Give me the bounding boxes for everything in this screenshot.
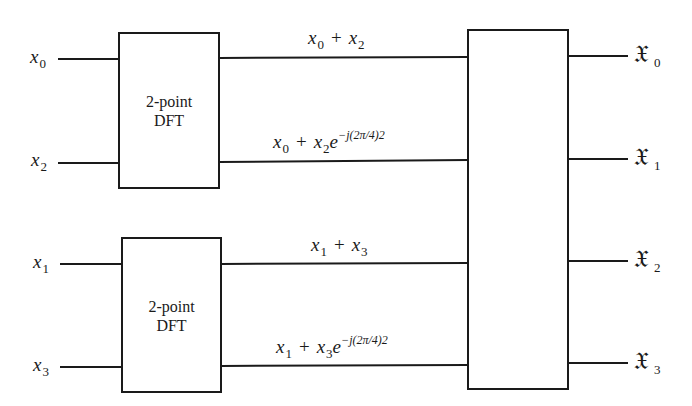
expr-index: 2: [358, 37, 365, 52]
input-label-x3: x3: [33, 355, 49, 374]
input-label-x2: x2: [31, 150, 47, 169]
input-symbol: x: [31, 149, 39, 170]
expr-index: 1: [285, 346, 292, 361]
expr-term: x: [349, 27, 357, 48]
dft-diagram: x0 x2 x1 x3 2-point DFT 2-point DFT x0+x…: [0, 0, 692, 406]
expr-term: x: [308, 27, 316, 48]
mid-expr-2: x1+x3: [311, 235, 368, 254]
expr-term: x: [311, 234, 319, 255]
output-index: 0: [654, 55, 661, 70]
mid-expr-1: x0+x2e−j(2π/4)2: [273, 132, 385, 151]
output-label-X3: 𝔛3: [634, 349, 661, 373]
input-index: 2: [40, 159, 47, 174]
input-index: 3: [42, 364, 49, 379]
input-label-x1: x1: [33, 252, 49, 271]
expr-term: x: [317, 336, 325, 357]
expr-exp-base: e: [333, 336, 341, 357]
expr-term: x: [276, 336, 284, 357]
dft-block-top-label: 2-point DFT: [119, 92, 219, 130]
mid-expr-0: x0+x2: [308, 28, 365, 47]
block-label-line2: DFT: [122, 316, 221, 335]
expr-index: 3: [361, 244, 368, 259]
expr-operator: +: [299, 336, 310, 357]
expr-term: x: [273, 131, 281, 152]
expr-index: 0: [317, 37, 324, 52]
expr-exp-base: e: [330, 131, 338, 152]
input-symbol: x: [30, 46, 38, 67]
output-index: 3: [654, 362, 661, 377]
output-symbol: 𝔛: [634, 40, 649, 68]
mid-line-1: [219, 160, 468, 162]
input-symbol: x: [33, 251, 41, 272]
expr-operator: +: [296, 131, 307, 152]
input-index: 0: [39, 56, 46, 71]
mid-line-0: [219, 57, 468, 58]
output-symbol: 𝔛: [634, 347, 649, 375]
output-symbol: 𝔛: [634, 143, 649, 171]
expr-index: 1: [320, 244, 327, 259]
input-label-x0: x0: [30, 47, 46, 66]
expr-index: 0: [282, 141, 289, 156]
expr-operator: +: [331, 27, 342, 48]
expr-term: x: [352, 234, 360, 255]
output-index: 1: [654, 158, 661, 173]
output-label-X2: 𝔛2: [634, 247, 661, 271]
twiddle-exponent: −j(2π/4)2: [338, 128, 385, 142]
mid-line-3: [221, 365, 468, 366]
block-label-line1: 2-point: [122, 297, 221, 316]
output-symbol: 𝔛: [634, 245, 649, 273]
input-index: 1: [42, 261, 49, 276]
output-label-X1: 𝔛1: [634, 145, 661, 169]
expr-operator: +: [334, 234, 345, 255]
combine-block: [468, 30, 568, 389]
dft-block-bottom-label: 2-point DFT: [122, 297, 221, 335]
input-symbol: x: [33, 354, 41, 375]
expr-index: 2: [323, 141, 330, 156]
block-label-line1: 2-point: [119, 92, 219, 111]
output-label-X0: 𝔛0: [634, 42, 661, 66]
output-index: 2: [654, 260, 661, 275]
mid-expr-3: x1+x3e−j(2π/4)2: [276, 337, 388, 356]
mid-line-2: [221, 263, 468, 264]
block-label-line2: DFT: [119, 111, 219, 130]
expr-term: x: [314, 131, 322, 152]
twiddle-exponent: −j(2π/4)2: [341, 333, 388, 347]
expr-index: 3: [326, 346, 333, 361]
